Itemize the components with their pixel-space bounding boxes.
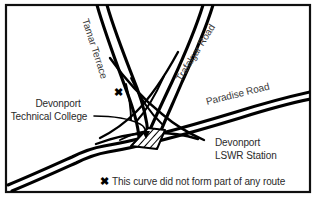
station-label-line2: LSWR Station [215, 150, 277, 161]
college-label-line2: Technical College [11, 111, 88, 122]
college-label-line1: Devonport [35, 98, 81, 109]
map-figure: ✖ Tamar Terrace Trafalgar Road Paradise … [0, 0, 316, 197]
caption-text: This curve did not form part of any rout… [112, 176, 286, 187]
label-devonport-technical-college: Devonport Technical College [11, 98, 88, 122]
caption-marker-icon: ✖ [100, 175, 109, 187]
label-paradise-road: Paradise Road [205, 81, 271, 107]
label-devonport-lswr-station: Devonport LSWR Station [215, 137, 277, 161]
station-label-line1: Devonport [215, 137, 261, 148]
curve-marker-icon: ✖ [114, 86, 123, 98]
figure-caption: ✖ This curve did not form part of any ro… [100, 175, 286, 187]
label-tamar-terrace: Tamar Terrace [80, 17, 110, 80]
